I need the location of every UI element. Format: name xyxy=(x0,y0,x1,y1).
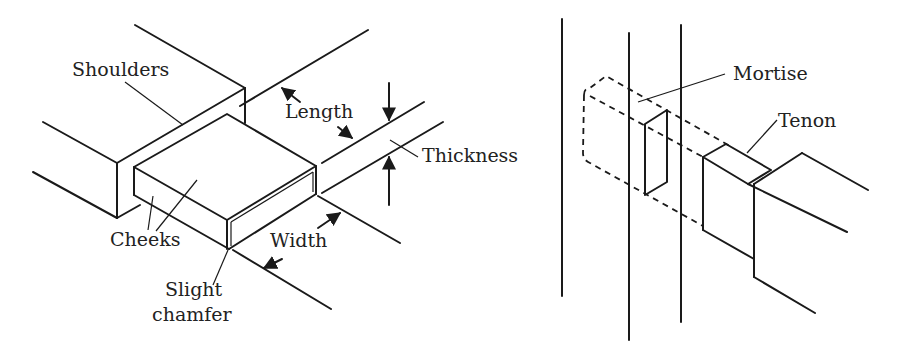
label-mortise: Mortise xyxy=(733,64,808,83)
mortise-tenon-diagram xyxy=(0,0,899,360)
joint-drawing xyxy=(562,19,868,340)
label-chamfer-line1: Slight xyxy=(165,280,222,299)
label-thickness: Thickness xyxy=(422,146,518,165)
label-length: Length xyxy=(285,102,353,121)
label-chamfer-line2: chamfer xyxy=(152,305,232,324)
label-width: Width xyxy=(270,231,327,250)
label-shoulders: Shoulders xyxy=(72,60,169,79)
label-tenon: Tenon xyxy=(778,111,836,130)
label-cheeks: Cheeks xyxy=(110,230,181,249)
